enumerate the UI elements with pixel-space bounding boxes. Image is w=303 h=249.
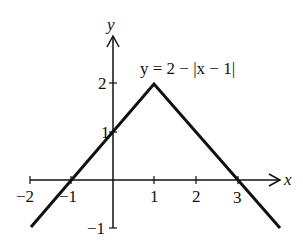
equation-label: y = 2 − |x − 1|: [140, 59, 235, 78]
tick-label-y-2: 2: [98, 74, 107, 93]
tick-label-x-m1: −1: [59, 187, 77, 206]
tick-label-y-1: 1: [101, 123, 110, 142]
y-axis-label: y: [105, 15, 115, 34]
function-line: [31, 84, 280, 228]
tick-label-x-1: 1: [150, 187, 159, 206]
chart-canvas: −2 −1 1 2 3 2 1 −1 x y y = 2 − |x − 1|: [0, 0, 303, 249]
tick-label-y-m1: −1: [87, 219, 105, 238]
tick-label-x-3: 3: [233, 188, 242, 207]
tick-label-x-m2: −2: [16, 187, 34, 206]
x-axis-label: x: [283, 170, 292, 189]
tick-label-x-2: 2: [192, 187, 201, 206]
